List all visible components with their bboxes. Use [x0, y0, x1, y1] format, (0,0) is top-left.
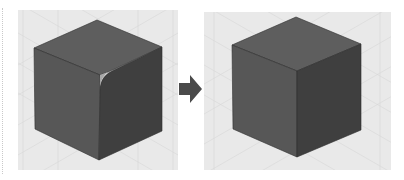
filleted-cube — [18, 10, 178, 170]
after-panel: Cube with sharp edge — [204, 12, 391, 170]
dotted-divider — [2, 8, 3, 174]
sharp-cube — [204, 12, 391, 170]
before-panel: Cube with filleted edge — [18, 10, 178, 170]
right-arrow-icon: transforms to — [179, 74, 203, 104]
